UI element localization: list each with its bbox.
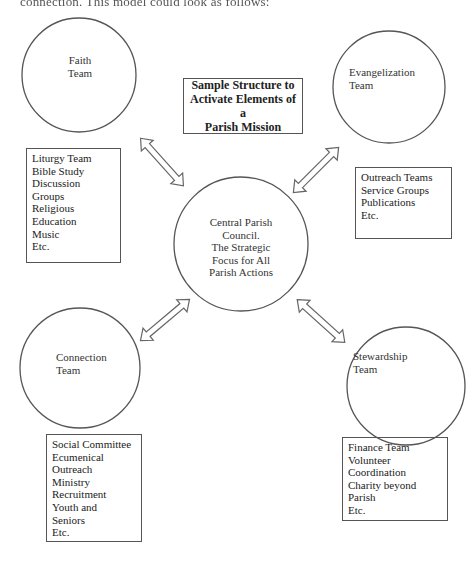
connection-team-list: Social Committee Ecumenical Outreach Min… [46, 434, 142, 542]
list-item: Etc. [32, 240, 116, 253]
connection-team-label: Connection Team [56, 351, 107, 376]
arrow-connection-center [135, 293, 194, 346]
list-item: Social Committee [52, 438, 137, 451]
arrow-stewardship-center [292, 294, 350, 349]
list-item: Finance Team [348, 441, 443, 454]
list-item: Seniors [52, 514, 137, 527]
faith-team-list: Liturgy Team Bible Study Discussion Grou… [26, 148, 121, 263]
list-item: Liturgy Team [32, 152, 116, 165]
evangelization-team-label: Evangelization Team [349, 66, 415, 91]
list-item: Music [32, 228, 116, 241]
evangelization-team-list: Outreach Teams Service Groups Publicatio… [355, 167, 452, 239]
list-item: Service Groups [361, 184, 447, 197]
list-item: Outreach [52, 463, 137, 476]
list-item: Outreach Teams [361, 171, 447, 184]
list-item: Youth and [52, 501, 137, 514]
faith-team-label: Faith Team [58, 54, 102, 79]
list-item: Bible Study [32, 165, 116, 178]
title-line-2: Activate Elements of a [186, 92, 300, 120]
list-item: Etc. [361, 209, 447, 222]
list-item: Publications [361, 196, 447, 209]
title-line-1: Sample Structure to [186, 78, 300, 92]
list-item: Volunteer [348, 454, 443, 467]
arrow-evangelization-center [288, 142, 345, 199]
stewardship-team-circle [347, 327, 465, 445]
list-item: Charity beyond [348, 479, 443, 492]
list-item: Education [32, 215, 116, 228]
list-item: Ecumenical [52, 451, 137, 464]
diagram-title-box: Sample Structure to Activate Elements of… [183, 78, 303, 134]
central-council-label: Central Parish Council. The Strategic Fo… [196, 216, 286, 279]
list-item: Ministry [52, 476, 137, 489]
list-item: Recruitment [52, 488, 137, 501]
list-item: Etc. [52, 526, 137, 539]
list-item: Coordination [348, 466, 443, 479]
list-item: Parish [348, 491, 443, 504]
arrow-faith-center [135, 133, 190, 191]
title-line-3: Parish Mission [186, 120, 300, 134]
list-item: Groups [32, 190, 116, 203]
stewardship-team-list: Finance Team Volunteer Coordination Char… [342, 437, 448, 521]
list-item: Discussion [32, 177, 116, 190]
list-item: Etc. [348, 504, 443, 517]
list-item: Religious [32, 202, 116, 215]
stewardship-team-label: Stewardship Team [353, 350, 407, 375]
